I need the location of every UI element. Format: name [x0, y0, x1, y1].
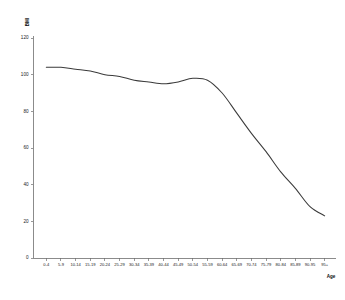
x-tick-label: 55-59 — [202, 262, 213, 267]
y-tick-label: 40 — [23, 182, 29, 187]
y-tick-label: 120 — [21, 35, 29, 40]
x-tick-label: 20-24 — [100, 262, 111, 267]
x-tick-label: 70-74 — [246, 262, 257, 267]
x-tick-label: 65-69 — [232, 262, 243, 267]
x-axis-title: Age — [327, 274, 336, 279]
x-tick-label: 75-79 — [261, 262, 272, 267]
x-tick-label: 30-34 — [129, 262, 140, 267]
x-tick-labels: 0-45-910-1415-1920-2425-2930-3435-3940-4… — [43, 262, 328, 267]
y-axis-group: 020406080100120 BMI — [21, 18, 33, 260]
x-tick-label: 10-14 — [70, 262, 81, 267]
x-tick-label: 45-49 — [173, 262, 184, 267]
x-axis-group: 0-45-910-1415-1920-2425-2930-3435-3940-4… — [33, 258, 336, 279]
bmi-line-series — [46, 67, 324, 216]
x-tick-label: 95+ — [321, 262, 329, 267]
chart-canvas: 020406080100120 BMI 0-45-910-1415-1920-2… — [0, 0, 345, 300]
y-tick-label: 80 — [23, 109, 29, 114]
y-tick-label: 20 — [23, 219, 29, 224]
y-tick-label: 100 — [21, 72, 29, 77]
x-tick-label: 85-89 — [290, 262, 301, 267]
series-group — [46, 67, 324, 216]
x-tick-label: 60-64 — [217, 262, 228, 267]
x-tick-label: 50-54 — [188, 262, 199, 267]
y-tick-label: 60 — [23, 145, 29, 150]
x-tick-label: 25-29 — [114, 262, 125, 267]
x-tick-label: 80-84 — [275, 262, 286, 267]
y-tick-label: 0 — [26, 255, 29, 260]
bmi-by-age-chart: 020406080100120 BMI 0-45-910-1415-1920-2… — [0, 0, 345, 300]
x-tick-label: 35-39 — [144, 262, 155, 267]
x-tick-label: 15-19 — [85, 262, 96, 267]
y-axis-title: BMI — [25, 18, 30, 26]
x-tick-label: 90-95 — [305, 262, 316, 267]
x-tick-label: 5-9 — [58, 262, 65, 267]
y-tick-labels: 020406080100120 — [21, 35, 29, 260]
x-tick-label: 40-44 — [158, 262, 169, 267]
x-tick-label: 0-4 — [43, 262, 50, 267]
